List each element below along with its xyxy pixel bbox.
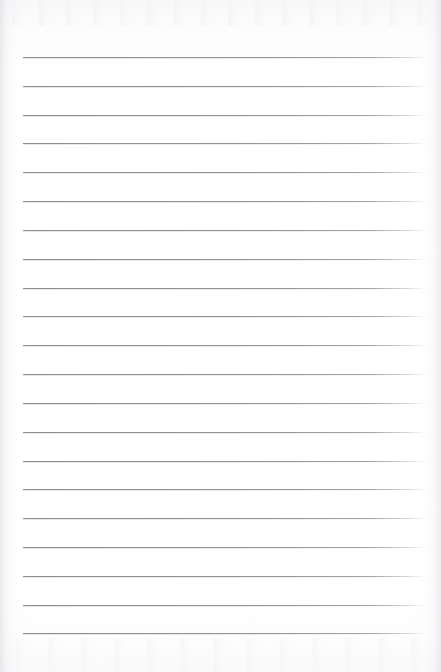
- page-text-content: [0, 0, 441, 672]
- notebook-page: [0, 0, 441, 672]
